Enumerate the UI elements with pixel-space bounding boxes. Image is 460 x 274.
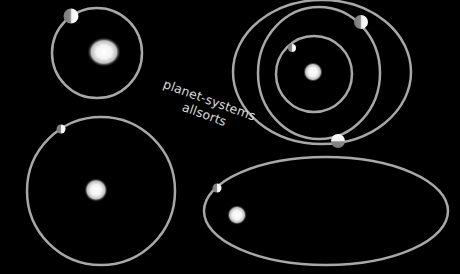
system-bottom-left: [27, 117, 175, 265]
planet-icon: [331, 134, 345, 148]
planet-icon: [354, 15, 368, 29]
planet-icon: [288, 44, 296, 52]
sun-icon: [227, 205, 247, 225]
system-bottom-right: [204, 157, 448, 265]
planet-icon: [57, 125, 66, 134]
sun-icon: [84, 178, 108, 202]
planet-icon: [213, 184, 222, 193]
system-top-left: [52, 8, 142, 98]
system-top-right: [233, 0, 411, 148]
planet-icon: [64, 9, 79, 24]
sun-icon: [87, 37, 121, 67]
planet-systems-canvas: [0, 0, 460, 274]
sun-icon: [303, 62, 323, 82]
